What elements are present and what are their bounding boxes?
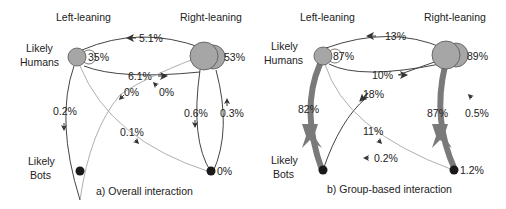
self-loop-label-left-humans: 35%	[88, 51, 109, 63]
panel-caption: a) Overall interaction	[96, 185, 193, 197]
edge-label-lh-to-rb: 0.1%	[120, 126, 144, 138]
row-label-bots-line2: Bots	[273, 168, 294, 180]
column-label-left: Left-leaning	[300, 11, 355, 23]
self-loop-label-right-humans: 89%	[467, 50, 488, 62]
edge-label-lb-to-rh: 18%	[363, 88, 384, 100]
edge-label-rh-to-rb: 0.6%	[184, 107, 208, 119]
row-label-humans-line2: Humans	[20, 56, 59, 68]
edge-label-rh-to-rb: 87%	[427, 107, 448, 119]
arrow-icon	[378, 140, 380, 142]
edge-rh-to-rb	[197, 70, 211, 172]
edge-label-lh-to-lb: 82%	[298, 103, 319, 115]
edge-label-rb-to-rh: 0.3%	[220, 107, 244, 119]
arrow-icon	[470, 96, 472, 98]
column-label-right: Right-leaning	[424, 11, 486, 23]
node-left-bots	[76, 167, 85, 176]
node-left-humans	[68, 48, 86, 66]
column-label-right: Right-leaning	[180, 11, 242, 23]
row-label-bots-line1: Likely	[271, 154, 299, 166]
node-left-bots	[319, 166, 328, 175]
edge-label-rh-lb: 0%	[124, 86, 139, 98]
row-label-humans-line2: Humans	[264, 54, 303, 66]
row-label-bots-line2: Bots	[30, 169, 51, 181]
edge-label-0pct-b: 0%	[159, 86, 174, 98]
arrow-icon	[432, 124, 452, 148]
edge-label-lh-to-lb: 0.2%	[53, 105, 77, 117]
self-loop-label-right-humans: 53%	[224, 51, 245, 63]
edge-lb-to-rh	[323, 98, 366, 170]
node-right-bots	[450, 166, 459, 175]
edge-rb-to-rh	[213, 70, 223, 172]
arrow-icon	[135, 140, 137, 142]
node-right-humans	[190, 42, 218, 70]
edge-label-lh-to-rh: 10%	[372, 69, 393, 81]
edge-label-rh-to-lh: 13%	[385, 30, 406, 42]
edge-label-lh-to-rh: 6.1%	[128, 70, 152, 82]
edge-label-rb-to-rh: 0.5%	[465, 107, 489, 119]
row-label-humans-line1: Likely	[26, 42, 54, 54]
self-loop-label-right-bots: 0%	[217, 165, 232, 177]
edge-label-rh-to-lh: 5.1%	[139, 32, 163, 44]
panel-group-based-interaction: Left-leaning Right-leaning Likely Humans…	[264, 11, 489, 195]
row-label-humans-line1: Likely	[271, 40, 299, 52]
edge-label-lh-to-rb: 11%	[363, 125, 383, 137]
self-loop-label-left-humans: 87%	[333, 50, 354, 62]
node-right-humans	[432, 41, 460, 69]
arrow-icon	[155, 84, 157, 86]
panel-caption: b) Group-based interaction	[327, 183, 452, 195]
edge-lh-to-lb-thick	[310, 64, 322, 170]
row-label-bots-line1: Likely	[28, 155, 56, 167]
edge-label-rb-to-lb: 0.2%	[374, 152, 398, 164]
panel-overall-interaction: Left-leaning Right-leaning Likely Humans…	[20, 11, 245, 200]
self-loop-label-right-bots: 1.2%	[460, 164, 484, 176]
node-right-bots	[207, 167, 216, 176]
node-left-humans	[314, 47, 332, 65]
edge-lh-to-lb	[66, 66, 80, 200]
column-label-left: Left-leaning	[56, 11, 111, 23]
interaction-diagram: Left-leaning Right-leaning Likely Humans…	[0, 0, 506, 209]
